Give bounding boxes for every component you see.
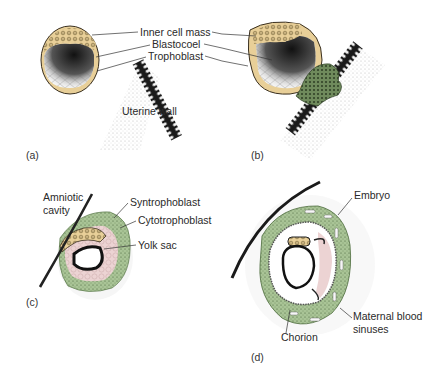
label-uterine-wall: Uterine wall [122, 105, 177, 117]
label-yolk-sac: Yolk sac [138, 239, 177, 251]
label-amniotic-cavity-line2: cavity [43, 204, 70, 216]
label-blastocoel: Blastocoel [152, 38, 200, 50]
panel-tag-a: (a) [26, 149, 39, 161]
label-amniotic-cavity-line1: Amniotic [43, 191, 83, 203]
label-maternal-blood-line1: Maternal blood [353, 310, 422, 322]
label-trophoblast: Trophoblast [148, 50, 203, 62]
panel-tag-b: (b) [251, 149, 264, 161]
panel-tag-d: (d) [251, 351, 264, 363]
label-embryo: Embryo [354, 189, 390, 201]
panel-b-artwork [222, 22, 385, 160]
implantation-diagram: Inner cell mass Blastocoel Trophoblast U… [0, 0, 439, 373]
label-maternal-blood-line2: sinuses [353, 323, 389, 335]
label-chorion: Chorion [281, 331, 318, 343]
panel-tag-c: (c) [26, 296, 38, 308]
label-syntrophoblast: Syntrophoblast [130, 196, 200, 208]
label-cytotrophoblast: Cytotrophoblast [138, 214, 212, 226]
label-inner-cell-mass: Inner cell mass [140, 26, 211, 38]
